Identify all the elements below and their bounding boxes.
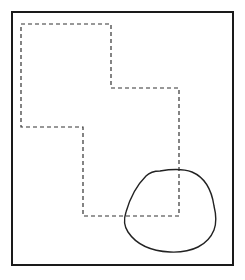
outer-frame (12, 12, 233, 265)
blob-shape (125, 170, 216, 252)
dashed-region (21, 24, 179, 216)
diagram-canvas (0, 0, 245, 280)
